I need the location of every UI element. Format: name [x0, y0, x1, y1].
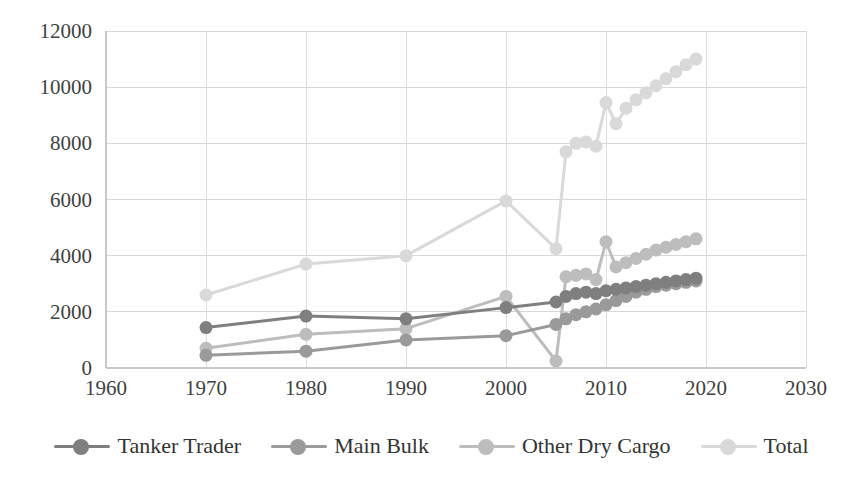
- legend-dot-icon: [73, 439, 89, 455]
- x-tick-label: 1960: [85, 376, 127, 400]
- data-point: [300, 328, 313, 341]
- data-point: [400, 249, 413, 262]
- data-point: [550, 242, 563, 255]
- legend-marker-icon: [54, 438, 110, 454]
- data-point: [200, 288, 213, 301]
- legend-dot-icon: [290, 439, 306, 455]
- data-point: [600, 96, 613, 109]
- y-tick-label: 2000: [50, 300, 92, 324]
- legend-item-tanker-trader[interactable]: Tanker Trader: [54, 435, 241, 457]
- plot-svg: 020004000600080001000012000 196019701980…: [0, 0, 863, 400]
- plot-area: 020004000600080001000012000 196019701980…: [0, 0, 863, 400]
- legend-dot-icon: [720, 439, 736, 455]
- data-point: [690, 53, 703, 66]
- data-point: [200, 349, 213, 362]
- data-point: [500, 290, 513, 303]
- legend-item-total[interactable]: Total: [701, 435, 809, 457]
- x-tick-label: 1990: [385, 376, 427, 400]
- data-point: [300, 310, 313, 323]
- x-tick-label: 2030: [785, 376, 827, 400]
- data-point: [590, 273, 603, 286]
- line-chart: 020004000600080001000012000 196019701980…: [0, 0, 863, 477]
- data-point: [550, 354, 563, 367]
- legend-item-other-dry-cargo[interactable]: Other Dry Cargo: [459, 435, 671, 457]
- data-point: [300, 258, 313, 271]
- legend-label: Main Bulk: [334, 435, 429, 457]
- x-tick-label: 1980: [285, 376, 327, 400]
- y-tick-label: 4000: [50, 244, 92, 268]
- data-point: [590, 140, 603, 153]
- y-tick-label: 8000: [50, 131, 92, 155]
- legend-label: Other Dry Cargo: [522, 435, 671, 457]
- data-point: [400, 333, 413, 346]
- data-point: [300, 345, 313, 358]
- x-tick-label: 2010: [585, 376, 627, 400]
- legend-dot-icon: [478, 439, 494, 455]
- legend-marker-icon: [701, 438, 757, 454]
- data-series-layer: [200, 53, 703, 368]
- y-tick-label: 6000: [50, 188, 92, 212]
- data-point: [500, 329, 513, 342]
- data-point: [200, 321, 213, 334]
- data-point: [690, 232, 703, 245]
- y-tick-label: 12000: [40, 19, 93, 43]
- chart-legend: Tanker TraderMain BulkOther Dry CargoTot…: [0, 415, 863, 477]
- data-point: [500, 301, 513, 314]
- x-axis-tick-labels: 19601970198019902000201020202030: [85, 376, 827, 400]
- x-tick-label: 2020: [685, 376, 727, 400]
- data-point: [610, 117, 623, 130]
- x-tick-label: 1970: [185, 376, 227, 400]
- data-point: [600, 235, 613, 248]
- y-axis-tick-labels: 020004000600080001000012000: [40, 19, 93, 380]
- x-tick-label: 2000: [485, 376, 527, 400]
- horizontal-gridlines: [106, 31, 806, 368]
- legend-label: Tanker Trader: [117, 435, 241, 457]
- data-point: [400, 312, 413, 325]
- legend-item-main-bulk[interactable]: Main Bulk: [271, 435, 429, 457]
- legend-marker-icon: [271, 438, 327, 454]
- data-point: [560, 145, 573, 158]
- legend-marker-icon: [459, 438, 515, 454]
- data-point: [690, 272, 703, 285]
- data-point: [500, 194, 513, 207]
- legend-label: Total: [764, 435, 809, 457]
- series-tanker-trader: [200, 272, 703, 334]
- y-tick-label: 10000: [40, 75, 93, 99]
- data-point: [620, 102, 633, 115]
